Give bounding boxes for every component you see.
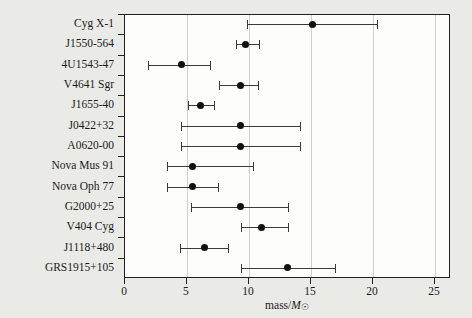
data-row xyxy=(0,105,472,106)
error-bar-cap-high xyxy=(228,244,229,253)
error-bar-cap-low xyxy=(236,40,237,49)
error-bar-cap-high xyxy=(210,61,211,70)
data-row xyxy=(0,44,472,45)
x-axis-tick xyxy=(186,278,187,284)
error-bar-cap-high xyxy=(377,20,378,29)
error-bar xyxy=(167,166,253,167)
data-point xyxy=(242,41,249,48)
error-bar-cap-low xyxy=(167,183,168,192)
data-point xyxy=(197,102,204,109)
x-axis-tick-label: 10 xyxy=(242,286,254,298)
error-bar-cap-high xyxy=(288,203,289,212)
x-axis-title-symbol: M xyxy=(291,299,301,311)
data-point xyxy=(237,143,244,150)
data-overlay: 0510152025 xyxy=(0,0,472,318)
x-axis-title-prefix: mass/ xyxy=(265,299,291,311)
data-point xyxy=(237,203,244,210)
data-point xyxy=(284,264,291,271)
error-bar-cap-low xyxy=(188,101,189,110)
error-bar-cap-high xyxy=(300,122,301,131)
data-point xyxy=(309,21,316,28)
data-row xyxy=(0,85,472,86)
error-bar-cap-high xyxy=(300,142,301,151)
chart-figure: Cyg X-1J1550-5644U1543-47V4641 SgrJ1655-… xyxy=(0,0,472,318)
error-bar-cap-low xyxy=(181,142,182,151)
x-axis-tick-label: 15 xyxy=(304,286,316,298)
error-bar-cap-high xyxy=(253,162,254,171)
data-row xyxy=(0,65,472,66)
data-point xyxy=(237,82,244,89)
x-axis-title: mass/M☉ xyxy=(124,300,450,312)
data-row xyxy=(0,248,472,249)
error-bar-cap-high xyxy=(288,223,289,232)
data-point xyxy=(237,122,244,129)
x-axis-tick-label: 5 xyxy=(183,286,189,298)
data-row xyxy=(0,268,472,269)
data-point xyxy=(258,224,265,231)
data-row xyxy=(0,227,472,228)
x-axis-tick xyxy=(248,278,249,284)
data-point xyxy=(189,163,196,170)
error-bar-cap-low xyxy=(219,81,220,90)
data-row xyxy=(0,126,472,127)
x-axis-tick-label: 0 xyxy=(121,286,127,298)
solar-mass-icon: ☉ xyxy=(301,302,309,312)
error-bar-cap-high xyxy=(259,40,260,49)
error-bar-cap-low xyxy=(241,264,242,273)
x-axis-tick xyxy=(434,278,435,284)
error-bar-cap-high xyxy=(258,81,259,90)
data-row xyxy=(0,207,472,208)
error-bar-cap-high xyxy=(218,183,219,192)
data-point xyxy=(178,61,185,68)
x-axis-tick-label: 25 xyxy=(428,286,440,298)
error-bar-cap-low xyxy=(247,20,248,29)
error-bar-cap-low xyxy=(181,122,182,131)
data-point xyxy=(201,244,208,251)
x-axis-tick xyxy=(310,278,311,284)
error-bar-cap-low xyxy=(241,223,242,232)
error-bar-cap-low xyxy=(180,244,181,253)
x-axis-tick xyxy=(372,278,373,284)
x-axis-tick-label: 20 xyxy=(366,286,378,298)
data-row xyxy=(0,187,472,188)
error-bar-cap-high xyxy=(335,264,336,273)
error-bar-cap-low xyxy=(167,162,168,171)
data-row xyxy=(0,24,472,25)
error-bar-cap-low xyxy=(191,203,192,212)
x-axis-tick xyxy=(124,278,125,284)
error-bar-cap-low xyxy=(148,61,149,70)
data-row xyxy=(0,166,472,167)
error-bar-cap-high xyxy=(214,101,215,110)
data-point xyxy=(189,183,196,190)
data-row xyxy=(0,146,472,147)
